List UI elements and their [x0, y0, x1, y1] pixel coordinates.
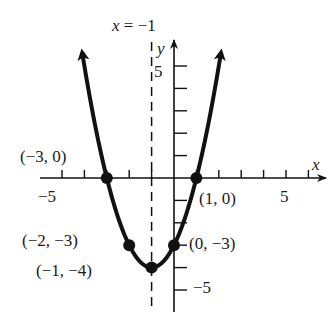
point-label-neg3-0: (−3, 0) — [20, 147, 66, 166]
x-axis-label: x — [311, 155, 320, 174]
x-axis-ticks — [62, 170, 308, 178]
point-label-0-neg3: (0, −3) — [189, 234, 235, 253]
point-marker — [146, 262, 158, 274]
point-marker — [123, 239, 135, 251]
y-tick-label-5: 5 — [154, 62, 163, 81]
x-tick-label-5: 5 — [280, 187, 289, 206]
point-label-1-0: (1, 0) — [199, 189, 236, 208]
point-marker — [168, 239, 180, 251]
parabola-graph: x = −1 y 5 x −5 5 −5 (−3, 0) (1, 0) (−2,… — [0, 0, 335, 318]
point-label-neg1-neg4: (−1, −4) — [36, 261, 92, 280]
y-axis-label: y — [155, 39, 165, 58]
point-marker — [190, 172, 202, 184]
point-marker — [101, 172, 113, 184]
parabola-left-branch — [82, 52, 151, 267]
point-label-neg2-neg3: (−2, −3) — [22, 231, 78, 250]
y-tick-label-neg5: −5 — [193, 278, 211, 297]
symmetry-label: x = −1 — [111, 16, 156, 35]
x-tick-label-neg5: −5 — [38, 187, 56, 206]
